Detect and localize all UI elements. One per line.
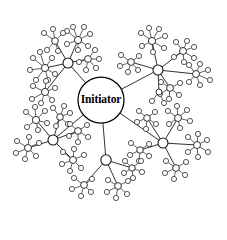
hub-node[interactable] (48, 135, 58, 145)
leaf-node[interactable] (23, 109, 28, 114)
leaf-node[interactable] (152, 109, 157, 114)
leaf-node[interactable] (185, 134, 190, 139)
leaf-node[interactable] (163, 158, 168, 163)
leaf-node[interactable] (146, 153, 151, 158)
leaf-node[interactable] (49, 97, 54, 102)
leaf-node[interactable] (134, 119, 139, 124)
sub-hub-node[interactable] (137, 147, 144, 154)
leaf-node[interactable] (156, 26, 161, 31)
leaf-node[interactable] (75, 47, 80, 52)
sub-hub-node[interactable] (81, 182, 88, 189)
sub-hub-node[interactable] (173, 165, 180, 172)
leaf-node[interactable] (187, 118, 192, 123)
leaf-node[interactable] (165, 108, 170, 113)
leaf-node[interactable] (96, 56, 101, 61)
leaf-node[interactable] (52, 85, 57, 90)
leaf-node[interactable] (38, 100, 43, 105)
leaf-node[interactable] (53, 123, 58, 128)
leaf-node[interactable] (183, 159, 188, 164)
leaf-node[interactable] (33, 77, 38, 82)
leaf-node[interactable] (61, 103, 66, 108)
leaf-node[interactable] (128, 140, 133, 145)
leaf-node[interactable] (35, 127, 40, 132)
leaf-node[interactable] (78, 193, 83, 198)
leaf-node[interactable] (177, 80, 182, 85)
leaf-node[interactable] (146, 141, 151, 146)
leaf-node[interactable] (66, 133, 71, 138)
leaf-node[interactable] (138, 30, 143, 35)
leaf-node[interactable] (174, 103, 179, 108)
leaf-node[interactable] (13, 150, 18, 155)
hub-node[interactable] (158, 138, 168, 148)
leaf-node[interactable] (67, 168, 72, 173)
leaf-node[interactable] (70, 24, 75, 29)
leaf-node[interactable] (118, 52, 123, 57)
leaf-node[interactable] (146, 25, 151, 30)
sub-hub-node[interactable] (180, 48, 187, 55)
leaf-node[interactable] (42, 108, 47, 113)
leaf-node[interactable] (43, 78, 48, 83)
sub-hub-node[interactable] (115, 183, 122, 190)
leaf-node[interactable] (30, 83, 35, 88)
leaf-node[interactable] (161, 45, 166, 50)
leaf-node[interactable] (171, 54, 176, 59)
leaf-node[interactable] (186, 79, 191, 84)
leaf-node[interactable] (84, 122, 89, 127)
leaf-node[interactable] (204, 137, 209, 142)
leaf-node[interactable] (75, 139, 80, 144)
leaf-node[interactable] (185, 149, 190, 154)
leaf-node[interactable] (150, 49, 155, 54)
leaf-node[interactable] (149, 98, 154, 103)
leaf-node[interactable] (161, 100, 166, 105)
sub-hub-node[interactable] (148, 37, 155, 44)
leaf-node[interactable] (33, 153, 38, 158)
leaf-node[interactable] (153, 121, 158, 126)
leaf-node[interactable] (125, 69, 130, 74)
hub-node[interactable] (153, 65, 163, 75)
leaf-node[interactable] (26, 134, 31, 139)
sub-hub-node[interactable] (144, 115, 151, 122)
leaf-node[interactable] (195, 131, 200, 136)
leaf-node[interactable] (186, 62, 191, 67)
leaf-node[interactable] (117, 63, 122, 68)
leaf-node[interactable] (104, 189, 109, 194)
leaf-node[interactable] (27, 67, 32, 72)
hub-node[interactable] (63, 58, 73, 68)
leaf-node[interactable] (52, 71, 57, 76)
leaf-node[interactable] (139, 169, 144, 174)
leaf-node[interactable] (191, 55, 196, 60)
leaf-node[interactable] (184, 107, 189, 112)
sub-hub-node[interactable] (32, 116, 39, 123)
leaf-node[interactable] (76, 59, 81, 64)
sub-hub-node[interactable] (175, 115, 182, 122)
leaf-node[interactable] (136, 108, 141, 113)
leaf-node[interactable] (55, 48, 60, 53)
leaf-node[interactable] (158, 79, 163, 84)
leaf-node[interactable] (205, 67, 210, 72)
leaf-node[interactable] (205, 149, 210, 154)
leaf-node[interactable] (197, 61, 202, 66)
leaf-node[interactable] (60, 30, 65, 35)
sub-hub-node[interactable] (129, 165, 135, 171)
sub-hub-node[interactable] (85, 56, 92, 63)
leaf-node[interactable] (197, 82, 202, 87)
leaf-node[interactable] (122, 158, 127, 163)
leaf-node[interactable] (59, 161, 64, 166)
leaf-node[interactable] (162, 170, 167, 175)
leaf-node[interactable] (121, 170, 126, 175)
leaf-node[interactable] (191, 44, 196, 49)
leaf-node[interactable] (24, 124, 29, 129)
leaf-node[interactable] (14, 138, 19, 143)
leaf-node[interactable] (71, 146, 76, 151)
leaf-node[interactable] (92, 47, 97, 52)
leaf-node[interactable] (78, 165, 83, 170)
sub-hub-node[interactable] (128, 59, 135, 66)
leaf-node[interactable] (89, 176, 94, 181)
leaf-node[interactable] (127, 152, 132, 157)
leaf-node[interactable] (71, 175, 76, 180)
leaf-node[interactable] (50, 105, 55, 110)
leaf-node[interactable] (130, 175, 135, 180)
leaf-node[interactable] (41, 30, 46, 35)
leaf-node[interactable] (81, 24, 86, 29)
leaf-node[interactable] (32, 104, 37, 109)
